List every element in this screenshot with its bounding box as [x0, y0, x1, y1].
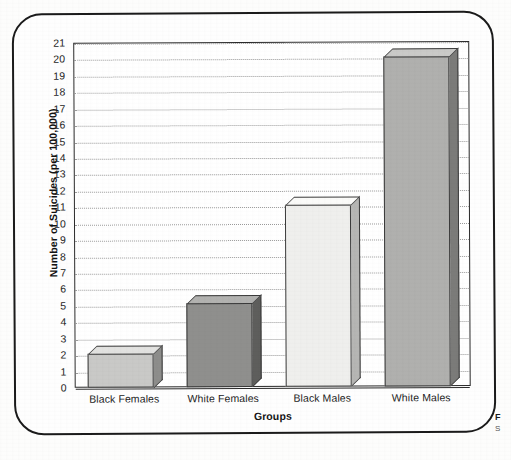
bar-top-face — [87, 345, 162, 354]
y-axis-tick-labels: 0123456789101112131415161718192021 — [15, 43, 73, 388]
y-tick-label-21: 21 — [53, 38, 65, 49]
bar-series — [73, 41, 471, 388]
bar-top-face — [186, 295, 261, 304]
figure-caption-fragment: F S — [495, 412, 511, 452]
caption-plain-fragment: S — [495, 423, 511, 434]
bar-front-face — [284, 204, 351, 387]
y-tick-label-13: 13 — [54, 169, 66, 180]
bar-front-face — [383, 56, 450, 386]
y-tick-label-0: 0 — [61, 383, 67, 394]
y-tick-label-17: 17 — [53, 103, 65, 114]
y-tick-label-6: 6 — [60, 284, 66, 295]
x-tick-label-black-females: Black Females — [75, 392, 174, 404]
y-tick-label-8: 8 — [60, 251, 66, 262]
y-tick-label-15: 15 — [54, 136, 66, 147]
bar-white-males — [383, 56, 450, 386]
y-tick-label-10: 10 — [54, 218, 66, 229]
bar-side-face — [449, 47, 459, 386]
bar-chart: Number of Suicides (per 100,000) 0123456… — [15, 13, 497, 431]
bar-side-face — [252, 295, 261, 388]
y-tick-label-19: 19 — [53, 70, 65, 81]
x-tick-label-white-males: White Males — [372, 391, 471, 403]
y-tick-label-9: 9 — [60, 235, 66, 246]
x-axis-tick-labels: Black FemalesWhite FemalesBlack MalesWhi… — [75, 391, 471, 411]
bar-black-females — [87, 353, 153, 388]
y-tick-label-16: 16 — [53, 120, 65, 131]
bar-white-females — [186, 303, 252, 387]
x-tick-label-black-males: Black Males — [273, 391, 372, 403]
caption-bold-fragment: F — [495, 412, 511, 423]
y-tick-label-18: 18 — [53, 87, 65, 98]
bar-top-face — [383, 48, 458, 57]
y-tick-label-14: 14 — [54, 153, 66, 164]
x-axis-title: Groups — [75, 409, 471, 423]
bar-front-face — [87, 353, 153, 388]
y-tick-label-1: 1 — [61, 366, 67, 377]
bar-top-face — [284, 196, 359, 205]
y-tick-label-11: 11 — [55, 202, 66, 213]
bar-front-face — [186, 303, 252, 387]
y-tick-label-20: 20 — [53, 54, 65, 65]
y-tick-label-12: 12 — [54, 185, 66, 196]
y-tick-label-5: 5 — [60, 300, 66, 311]
x-tick-label-white-females: White Females — [174, 392, 273, 404]
scanned-page-background: Number of Suicides (per 100,000) 0123456… — [0, 0, 511, 460]
y-tick-label-7: 7 — [60, 268, 66, 279]
y-tick-label-2: 2 — [61, 350, 67, 361]
y-tick-label-3: 3 — [60, 333, 66, 344]
y-tick-label-4: 4 — [60, 317, 66, 328]
bar-black-males — [284, 204, 351, 387]
bar-side-face — [350, 196, 360, 387]
